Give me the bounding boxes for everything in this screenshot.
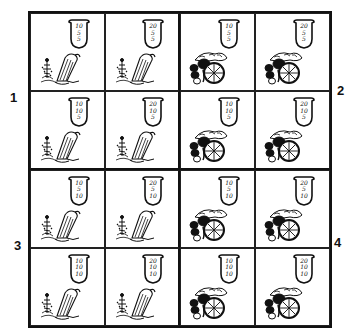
quadrant-number-1: 1	[10, 90, 17, 105]
tag-value-bottom: 5	[300, 114, 308, 121]
tag-value-bottom: 5	[225, 36, 233, 43]
number-tag: 1055	[68, 19, 90, 49]
plant-figure-drawing-icon	[114, 48, 162, 86]
diagram-grid: 1055 2055 1055	[28, 11, 332, 328]
number-tag: 201010	[142, 254, 164, 284]
number-tag: 2055	[142, 19, 164, 49]
grid-cell-q1: 2055	[105, 13, 180, 91]
plant-figure-drawing-icon	[39, 205, 87, 243]
plant-figure-drawing-icon	[114, 126, 162, 164]
grid-cell-q4: 10510	[180, 170, 255, 248]
fruit-pile-drawing-icon	[264, 283, 312, 321]
tag-value-bottom: 5	[225, 114, 233, 121]
fruit-pile-drawing-icon	[189, 283, 237, 321]
fruit-pile-drawing-icon	[189, 205, 237, 243]
number-tag: 10105	[68, 97, 90, 127]
tag-value-bottom: 10	[300, 271, 308, 278]
fruit-pile-drawing-icon	[264, 205, 312, 243]
number-tag: 1055	[218, 19, 240, 49]
plant-figure-drawing-icon	[39, 126, 87, 164]
number-tag: 20510	[142, 176, 164, 206]
tag-value-bottom: 5	[149, 114, 157, 121]
grid-cell-q1: 10105	[30, 91, 105, 169]
tag-value-bottom: 10	[225, 271, 233, 278]
tag-value-bottom: 10	[300, 193, 308, 200]
number-tag: 20105	[293, 97, 315, 127]
fruit-pile-drawing-icon	[264, 126, 312, 164]
grid-cell-q2: 2055	[255, 13, 330, 91]
tag-value-bottom: 10	[75, 271, 83, 278]
grid-cell-q3: 101010	[30, 248, 105, 326]
quadrant-number-4: 4	[334, 235, 341, 250]
number-tag: 10105	[218, 97, 240, 127]
tag-value-bottom: 5	[300, 36, 308, 43]
plant-figure-drawing-icon	[114, 205, 162, 243]
tag-value-bottom: 5	[75, 36, 83, 43]
quadrant-number-3: 3	[14, 238, 21, 253]
grid-cell-q1: 20105	[105, 91, 180, 169]
tag-value-bottom: 10	[225, 193, 233, 200]
fruit-pile-drawing-icon	[264, 48, 312, 86]
plant-figure-drawing-icon	[39, 48, 87, 86]
grid-cell-q2: 20105	[255, 91, 330, 169]
number-tag: 101010	[218, 254, 240, 284]
plant-figure-drawing-icon	[114, 283, 162, 321]
quadrant-number-2: 2	[337, 83, 344, 98]
number-tag: 20105	[142, 97, 164, 127]
grid-cell-q3: 10510	[30, 170, 105, 248]
grid-cell-q4: 101010	[180, 248, 255, 326]
tag-value-bottom: 10	[149, 193, 157, 200]
number-tag: 101010	[68, 254, 90, 284]
fruit-pile-drawing-icon	[189, 48, 237, 86]
number-tag: 201010	[293, 254, 315, 284]
grid-cell-q2: 1055	[180, 13, 255, 91]
tag-value-bottom: 5	[75, 114, 83, 121]
grid-cell-q3: 201010	[105, 248, 180, 326]
tag-value-bottom: 10	[149, 271, 157, 278]
grid-cell-q1: 1055	[30, 13, 105, 91]
number-tag: 10510	[218, 176, 240, 206]
grid-cell-q4: 201010	[255, 248, 330, 326]
tag-value-bottom: 10	[75, 193, 83, 200]
plant-figure-drawing-icon	[39, 283, 87, 321]
grid-cell-q4: 20510	[255, 170, 330, 248]
number-tag: 2055	[293, 19, 315, 49]
number-tag: 10510	[68, 176, 90, 206]
fruit-pile-drawing-icon	[189, 126, 237, 164]
grid-cell-q3: 20510	[105, 170, 180, 248]
tag-value-bottom: 5	[149, 36, 157, 43]
grid-cell-q2: 10105	[180, 91, 255, 169]
number-tag: 20510	[293, 176, 315, 206]
